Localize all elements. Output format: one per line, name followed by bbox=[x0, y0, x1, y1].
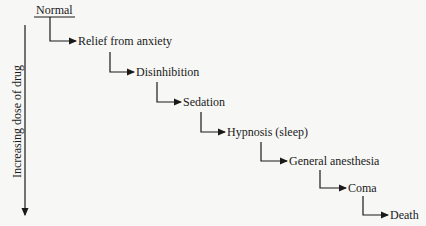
stage-coma: Coma bbox=[348, 181, 377, 195]
stage-hypnosis: Hypnosis (sleep) bbox=[227, 125, 308, 139]
stage-relief-from-anxiety: Relief from anxiety bbox=[78, 34, 172, 48]
stage-sedation: Sedation bbox=[183, 95, 225, 109]
stage-general-anesthesia: General anesthesia bbox=[289, 154, 379, 168]
stage-death: Death bbox=[390, 208, 419, 222]
stage-disinhibition: Disinhibition bbox=[136, 65, 199, 79]
stage-normal: Normal bbox=[36, 3, 73, 17]
dose-axis-label: Increasing dose of drug bbox=[10, 57, 25, 187]
